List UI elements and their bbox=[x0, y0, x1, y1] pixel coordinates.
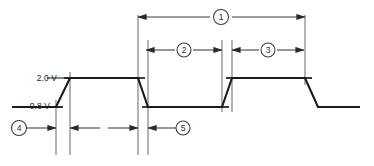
dimension-group-5: 5 bbox=[148, 121, 190, 135]
callout-label-4: 4 bbox=[17, 123, 22, 133]
callout-label-5: 5 bbox=[181, 123, 186, 133]
waveform-trace bbox=[12, 78, 360, 107]
callout-label-2: 2 bbox=[182, 45, 187, 55]
callout-label-1: 1 bbox=[219, 12, 224, 22]
timing-diagram-svg: 1 2 3 4 5 bbox=[0, 0, 374, 166]
timing-diagram-root: 1 2 3 4 5 bbox=[0, 0, 374, 166]
voltage-label-low: 0.8 V bbox=[30, 101, 51, 111]
dimension-group-4: 4 bbox=[12, 121, 57, 136]
waveform-group bbox=[12, 78, 360, 107]
voltage-labels-group: 2.0 V 0.8 V bbox=[30, 73, 58, 111]
dimension-group-2: 2 bbox=[146, 43, 222, 57]
voltage-label-high: 2.0 V bbox=[37, 73, 58, 83]
dimension-group-3: 3 bbox=[232, 43, 304, 57]
callout-label-3: 3 bbox=[266, 45, 271, 55]
threshold-tick-marks-group bbox=[50, 78, 312, 107]
dimension-group-1: 1 bbox=[138, 10, 305, 25]
